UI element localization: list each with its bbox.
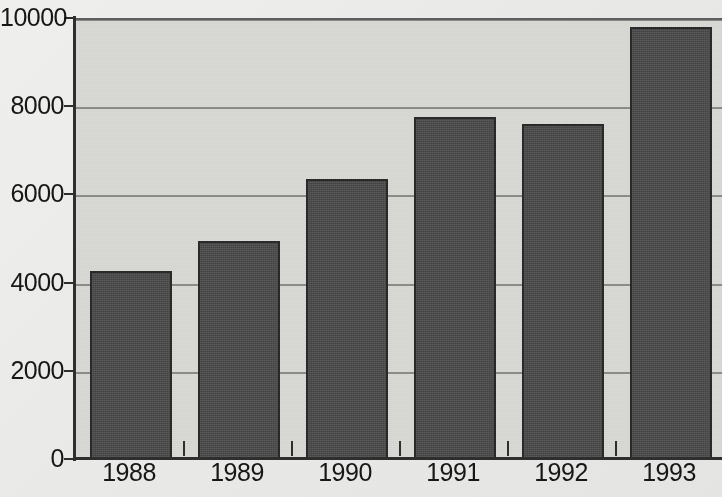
x-tick-label-1992: 1992 — [534, 460, 588, 485]
bar-texture — [524, 126, 602, 459]
paper-texture-overlay — [76, 20, 722, 459]
y-tick-0 — [64, 458, 74, 460]
y-tick-4000 — [64, 282, 74, 284]
x-tick-1991 — [507, 441, 509, 456]
y-tick-2000 — [64, 370, 74, 372]
bar-chart-figure: 0200040006000800010000 19881989199019911… — [0, 0, 722, 497]
y-tick-label-6000: 6000 — [0, 181, 64, 206]
x-tick-label-1988: 1988 — [102, 460, 156, 485]
gridline-8000 — [76, 107, 722, 109]
bar-1990 — [306, 179, 388, 459]
gridline-2000 — [76, 372, 722, 374]
y-tick-label-0: 0 — [0, 446, 64, 471]
plot-area — [74, 18, 722, 459]
bar-texture — [416, 119, 494, 459]
y-tick-6000 — [64, 193, 74, 195]
bar-1992 — [522, 124, 604, 459]
bar-1991 — [414, 117, 496, 459]
y-tick-8000 — [64, 105, 74, 107]
x-tick-1990 — [399, 441, 401, 456]
x-tick-label-1993: 1993 — [642, 460, 696, 485]
y-tick-label-10000: 10000 — [0, 5, 64, 30]
x-tick-1989 — [291, 441, 293, 456]
x-tick-label-1990: 1990 — [318, 460, 372, 485]
y-tick-label-8000: 8000 — [0, 93, 64, 118]
y-axis-line — [73, 16, 76, 461]
bar-texture — [92, 273, 170, 459]
bar-1993 — [630, 27, 712, 459]
bar-texture — [200, 243, 278, 460]
x-tick-1988 — [183, 441, 185, 456]
y-tick-label-4000: 4000 — [0, 270, 64, 295]
x-tick-1992 — [615, 441, 617, 456]
x-tick-label-1989: 1989 — [210, 460, 264, 485]
bar-texture — [632, 29, 710, 459]
x-axis-line — [73, 457, 722, 460]
bar-1988 — [90, 271, 172, 459]
y-tick-label-2000: 2000 — [0, 358, 64, 383]
bar-1989 — [198, 241, 280, 460]
gridline-10000 — [76, 19, 722, 21]
gridline-6000 — [76, 195, 722, 197]
gridline-4000 — [76, 284, 722, 286]
x-tick-label-1991: 1991 — [426, 460, 480, 485]
bar-texture — [308, 181, 386, 459]
